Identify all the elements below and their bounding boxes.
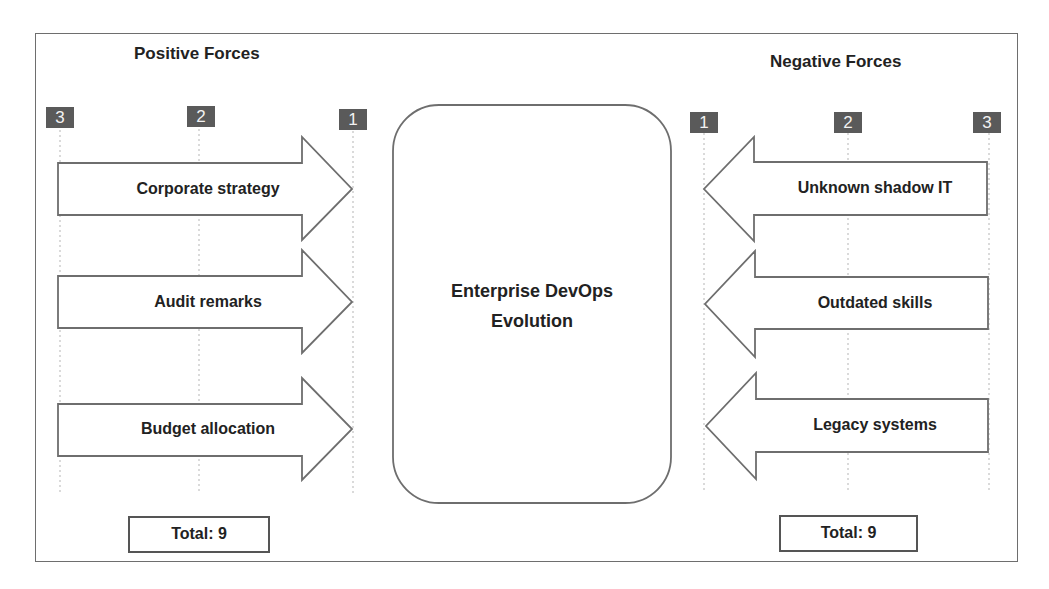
positive-force-label: Corporate strategy xyxy=(58,180,358,198)
negative-force-label: Legacy systems xyxy=(740,416,1010,434)
positive-force-label: Audit remarks xyxy=(58,293,358,311)
negative-scale-badge-3: 3 xyxy=(973,112,1001,133)
positive-total-box: Total: 9 xyxy=(128,516,270,553)
positive-forces-heading: Positive Forces xyxy=(134,44,260,64)
negative-forces-heading: Negative Forces xyxy=(770,52,901,72)
negative-force-label: Outdated skills xyxy=(740,294,1010,312)
negative-scale-badge-1: 1 xyxy=(690,112,718,133)
positive-scale-badge-2: 2 xyxy=(187,106,215,127)
positive-scale-badge-1: 1 xyxy=(339,109,367,130)
positive-force-label: Budget allocation xyxy=(58,420,358,438)
negative-force-label: Unknown shadow IT xyxy=(740,179,1010,197)
negative-total-box: Total: 9 xyxy=(779,515,918,552)
central-title-line-1: Enterprise DevOps xyxy=(393,276,671,306)
negative-scale-badge-2: 2 xyxy=(834,112,862,133)
central-change-title: Enterprise DevOps Evolution xyxy=(393,276,671,336)
positive-scale-badge-3: 3 xyxy=(46,107,74,128)
central-title-line-2: Evolution xyxy=(393,306,671,336)
